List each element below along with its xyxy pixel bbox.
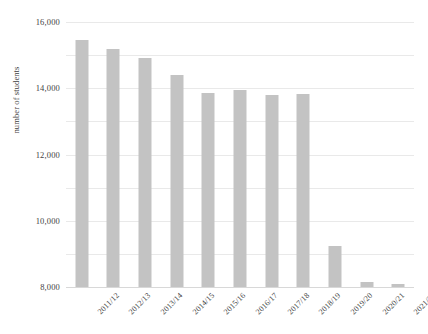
y-tick-label: 8,000 <box>40 282 60 292</box>
x-tick-label: 2020/21 <box>380 291 405 316</box>
bar-slot <box>319 22 351 287</box>
x-tick-label: 2012/13 <box>127 291 152 316</box>
gridline: - <box>66 287 414 288</box>
y-axis-title: number of students <box>11 40 21 160</box>
x-tick-label: 2017/18 <box>286 291 311 316</box>
x-tick-label: 2016/17 <box>254 291 279 316</box>
bar-slot <box>256 22 288 287</box>
y-tick-label: 12,000 <box>36 150 60 160</box>
y-tick-label: 14,000 <box>36 83 60 93</box>
bar[interactable] <box>107 49 120 288</box>
bar-slot <box>161 22 193 287</box>
bar-slot <box>351 22 383 287</box>
x-tick-label: 2014/15 <box>191 291 216 316</box>
bar[interactable] <box>265 95 278 287</box>
x-tick-label: 2011/12 <box>96 291 121 316</box>
bar[interactable] <box>360 282 373 287</box>
bar[interactable] <box>233 90 246 287</box>
x-tick-label: 2015/16 <box>222 291 247 316</box>
plot-area: -2,0004,0006,0008,00010,00012,00014,0001… <box>66 22 414 287</box>
bar-slot <box>193 22 225 287</box>
x-tick-label: 2018/19 <box>317 291 342 316</box>
bar-slot <box>66 22 98 287</box>
bar[interactable] <box>139 58 152 287</box>
bar[interactable] <box>202 93 215 287</box>
bar[interactable] <box>75 40 88 287</box>
bars-group <box>66 22 414 287</box>
bar-slot <box>287 22 319 287</box>
bar[interactable] <box>297 94 310 287</box>
bar-slot <box>382 22 414 287</box>
bar[interactable] <box>170 75 183 287</box>
bar-slot <box>224 22 256 287</box>
x-tick-label: 2019/20 <box>349 291 374 316</box>
bar-slot <box>129 22 161 287</box>
x-tick-label: 2021/22 <box>412 291 428 316</box>
y-tick-label: 16,000 <box>36 17 60 27</box>
bar[interactable] <box>392 284 405 287</box>
bar[interactable] <box>328 246 341 287</box>
x-tick-label: 2013/14 <box>159 291 184 316</box>
x-axis-labels-group: 2011/122012/132013/142014/152015/162016/… <box>66 289 414 334</box>
bar-chart: number of students -2,0004,0006,0008,000… <box>0 0 428 334</box>
bar-slot <box>98 22 130 287</box>
y-tick-label: 10,000 <box>36 216 60 226</box>
